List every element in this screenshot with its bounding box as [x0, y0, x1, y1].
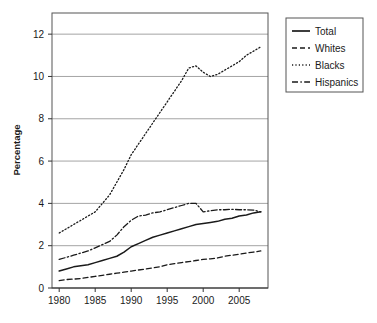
y-tick-label: 10: [33, 71, 45, 82]
y-tick-label: 0: [38, 283, 44, 294]
y-tick-label: 2: [38, 240, 44, 251]
y-tick-label: 12: [33, 29, 45, 40]
x-tick-label: 2000: [192, 295, 215, 306]
legend-label-total: Total: [315, 26, 336, 37]
legend-label-hispanics: Hispanics: [315, 77, 358, 88]
x-tick-label: 2005: [228, 295, 251, 306]
y-tick-label: 4: [38, 198, 44, 209]
chart-legend: TotalWhitesBlacksHispanics: [286, 18, 363, 92]
y-tick-label: 6: [38, 156, 44, 167]
y-tick-label: 8: [38, 113, 44, 124]
x-tick-label: 1990: [120, 295, 143, 306]
y-axis-title: Percentage: [11, 124, 22, 175]
legend-label-blacks: Blacks: [315, 60, 344, 71]
x-tick-label: 1995: [156, 295, 179, 306]
x-tick-label: 1980: [48, 295, 71, 306]
chart-figure: 024681012 198019851990199520002005 Perce…: [0, 0, 377, 323]
legend-label-whites: Whites: [315, 43, 346, 54]
line-chart: 024681012 198019851990199520002005 Perce…: [0, 0, 377, 323]
x-tick-label: 1985: [84, 295, 107, 306]
